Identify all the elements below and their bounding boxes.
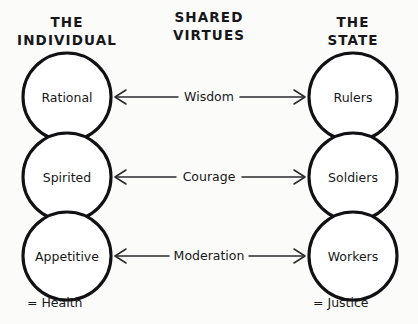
node-label-appetitive: Appetitive — [35, 249, 99, 264]
header-center-line2: VIRTUES — [173, 27, 245, 43]
diagram-canvas: THE INDIVIDUAL SHARED VIRTUES THE STATE … — [0, 0, 418, 324]
row-3-group: Appetitive Workers Moderation — [23, 212, 397, 300]
column-header-left: THE INDIVIDUAL — [17, 14, 117, 48]
node-label-soldiers: Soldiers — [328, 170, 378, 185]
node-label-rulers: Rulers — [334, 90, 373, 105]
header-right-line1: THE — [336, 14, 369, 30]
virtue-label-moderation: Moderation — [174, 248, 245, 263]
plato-tripartite-soul-diagram: THE INDIVIDUAL SHARED VIRTUES THE STATE … — [0, 0, 418, 324]
row-1-group: Rational Rulers Wisdom — [23, 53, 397, 141]
header-center-line1: SHARED — [175, 9, 244, 25]
connector-wisdom: Wisdom — [115, 89, 305, 104]
header-right-line2: STATE — [327, 32, 378, 48]
footer-label-health: = Health — [27, 295, 83, 310]
column-header-right: THE STATE — [327, 14, 378, 48]
connector-courage: Courage — [115, 169, 305, 184]
node-label-rational: Rational — [41, 90, 92, 105]
node-label-spirited: Spirited — [43, 170, 91, 185]
footer-label-justice: = Justice — [313, 295, 369, 310]
header-left-line2: INDIVIDUAL — [17, 32, 117, 48]
column-header-center: SHARED VIRTUES — [173, 9, 245, 43]
virtue-label-wisdom: Wisdom — [184, 89, 234, 104]
header-left-line1: THE — [50, 14, 83, 30]
row-2-group: Spirited Soldiers Courage — [23, 133, 397, 221]
virtue-label-courage: Courage — [183, 169, 236, 184]
node-label-workers: Workers — [328, 249, 379, 264]
connector-moderation: Moderation — [115, 248, 305, 263]
